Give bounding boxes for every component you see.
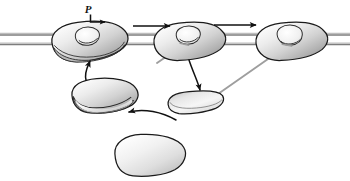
motor-head-detached-middle	[167, 89, 224, 116]
motor-head-detached-left	[71, 76, 139, 116]
arrow-recock-leftward	[129, 110, 176, 120]
arrow-rebind-upward	[85, 61, 90, 80]
phosphate-label: P	[85, 3, 92, 15]
motor-body-outline	[114, 132, 187, 178]
motor-head-detached-bottom	[114, 132, 187, 178]
motor-protein-cycle-figure: P	[0, 0, 350, 181]
motor-head-bound-right	[254, 18, 330, 64]
arrow-detach-downward	[189, 60, 200, 90]
motor-head-bound-left	[50, 17, 130, 66]
diagram-canvas: P	[0, 0, 350, 181]
motor-body-outline	[167, 89, 224, 116]
